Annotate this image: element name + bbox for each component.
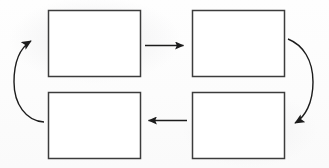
left-curved-arrow[interactable]: [14, 41, 44, 122]
right-curved-arrow[interactable]: [288, 39, 313, 123]
cycle-diagram-canvas: [0, 0, 329, 168]
box-top-left[interactable]: [49, 11, 141, 77]
box-bottom-left[interactable]: [49, 93, 141, 159]
box-top-right[interactable]: [193, 11, 285, 77]
diagram-vector-layer: [0, 0, 329, 168]
box-outlines: [49, 11, 285, 159]
box-bottom-right[interactable]: [193, 93, 285, 159]
